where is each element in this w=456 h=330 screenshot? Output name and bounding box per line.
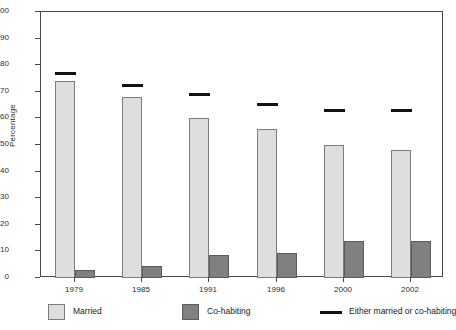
x-tick-mark xyxy=(208,277,209,282)
bar-married-1991 xyxy=(189,118,209,278)
x-axis-tick-2000: 2000 xyxy=(313,285,373,294)
y-axis-tick-40: 40 xyxy=(0,167,9,175)
marker-either-1985 xyxy=(122,84,143,87)
married-swatch xyxy=(48,304,65,320)
x-tick-mark xyxy=(343,277,344,282)
x-axis-tick-1979: 1979 xyxy=(44,285,104,294)
bar-cohabiting-2000 xyxy=(344,241,364,278)
legend-label-1: Co-habiting xyxy=(207,306,250,316)
bar-married-1996 xyxy=(257,129,277,278)
x-axis-tick-1985: 1985 xyxy=(111,285,171,294)
plot-area xyxy=(40,11,443,277)
y-axis-tick-80: 80 xyxy=(0,60,9,68)
y-axis-tick-10: 10 xyxy=(0,246,9,254)
bar-cohabiting-1985 xyxy=(142,266,162,278)
bar-married-2000 xyxy=(324,145,344,278)
bar-married-2002 xyxy=(391,150,411,278)
marker-either-1979 xyxy=(55,72,76,75)
y-axis-tick-20: 20 xyxy=(0,220,9,228)
y-axis-tick-60: 60 xyxy=(0,113,9,121)
marker-either-1991 xyxy=(189,93,210,96)
x-tick-mark xyxy=(74,277,75,282)
y-tick-mark xyxy=(35,277,40,278)
marker-line-swatch xyxy=(320,311,342,314)
y-axis-tick-90: 90 xyxy=(0,34,9,42)
marker-either-2000 xyxy=(324,109,345,112)
bar-cohabiting-1979 xyxy=(75,270,95,278)
bar-married-1979 xyxy=(55,81,75,278)
x-axis-tick-1996: 1996 xyxy=(246,285,306,294)
x-axis-tick-1991: 1991 xyxy=(178,285,238,294)
y-axis-tick-70: 70 xyxy=(0,87,9,95)
x-tick-mark xyxy=(276,277,277,282)
bar-cohabiting-1991 xyxy=(209,255,229,278)
y-axis-tick-30: 30 xyxy=(0,193,9,201)
y-axis-tick-100: 100 xyxy=(0,7,9,15)
marker-either-1996 xyxy=(257,103,278,106)
bar-married-1985 xyxy=(122,97,142,278)
y-axis-tick-50: 50 xyxy=(0,140,9,148)
bar-cohabiting-1996 xyxy=(277,253,297,278)
x-tick-mark xyxy=(141,277,142,282)
legend-label-0: Married xyxy=(73,306,102,316)
x-tick-mark xyxy=(410,277,411,282)
bar-cohabiting-2002 xyxy=(411,241,431,278)
x-axis-tick-2002: 2002 xyxy=(380,285,440,294)
chart-legend: MarriedCo-habitingEither married or co-h… xyxy=(0,302,454,330)
y-axis-tick-0: 0 xyxy=(0,273,9,281)
marker-either-2002 xyxy=(391,109,412,112)
legend-label-2: Either married or co-habiting xyxy=(349,306,456,316)
cohabiting-swatch xyxy=(182,304,199,320)
